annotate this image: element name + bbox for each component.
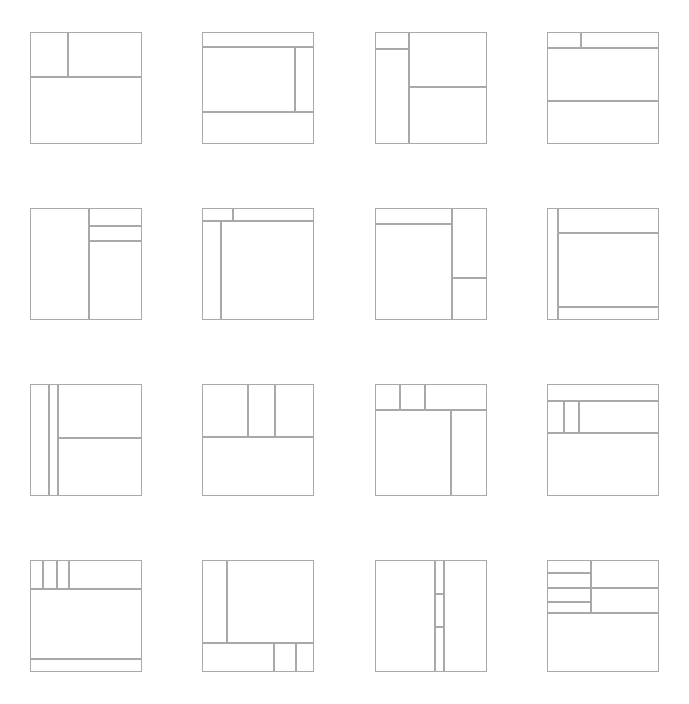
region-header-bar[interactable]: [203, 33, 314, 47]
region-toolbar-segment-3[interactable]: [58, 561, 69, 589]
region-toolbar-left[interactable]: [547, 33, 580, 48]
region-right-panel-bottom[interactable]: [452, 279, 486, 320]
region-tab-one[interactable]: [375, 385, 399, 410]
thumbnail-cell-16[interactable]: [517, 528, 689, 704]
thumbnail-cell-13[interactable]: [0, 528, 172, 704]
region-header-band[interactable]: [558, 209, 658, 233]
wireframe-thumbnail-grid: [0, 0, 689, 704]
region-header-column-middle[interactable]: [249, 385, 275, 437]
region-main-upper-panel[interactable]: [409, 33, 486, 87]
thumbnail-cell-2[interactable]: [172, 0, 344, 176]
region-main-lower-panel[interactable]: [409, 88, 486, 144]
region-thin-footer[interactable]: [31, 660, 142, 672]
region-rail-outer[interactable]: [31, 385, 49, 496]
wireframe-main-left-with-right-stacked-rail: [30, 208, 142, 320]
thumbnail-cell-6[interactable]: [172, 176, 344, 352]
region-right-panel-top[interactable]: [591, 561, 658, 588]
region-main-canvas[interactable]: [228, 561, 314, 643]
region-footer-bar[interactable]: [203, 113, 314, 144]
region-segment-left[interactable]: [547, 402, 563, 433]
thumbnail-cell-5[interactable]: [0, 176, 172, 352]
wireframe-toolbar-main-with-right-stacked-panels: [375, 208, 487, 320]
region-sidebar-body[interactable]: [375, 50, 408, 144]
region-narrow-rail[interactable]: [203, 222, 221, 320]
region-right-pane[interactable]: [444, 561, 486, 672]
region-side-rail[interactable]: [296, 48, 314, 112]
wireframe-small-tab-header-with-narrow-rail-and-main: [202, 208, 314, 320]
thumbnail-cell-1[interactable]: [0, 0, 172, 176]
region-main-canvas[interactable]: [375, 411, 450, 496]
region-body-area[interactable]: [203, 438, 314, 496]
region-divider-segment-top[interactable]: [435, 561, 443, 594]
thumbnail-cell-8[interactable]: [517, 176, 689, 352]
region-main-bottom-panel[interactable]: [59, 439, 142, 496]
region-divider-segment-low[interactable]: [435, 628, 443, 672]
region-list-row-2[interactable]: [547, 574, 590, 588]
region-list-row-4[interactable]: [547, 603, 590, 613]
region-bottom-bar-wide[interactable]: [203, 644, 274, 672]
region-banner-strip[interactable]: [547, 385, 658, 401]
region-main-column[interactable]: [31, 209, 89, 320]
region-content-area[interactable]: [203, 48, 295, 112]
region-segment-middle[interactable]: [564, 402, 578, 433]
region-main-top-panel[interactable]: [59, 385, 142, 438]
wireframe-header-split-two-over-full-body: [30, 32, 142, 144]
thumbnail-cell-15[interactable]: [345, 528, 517, 704]
region-toolbar-segment-2[interactable]: [44, 561, 57, 589]
region-list-row-3[interactable]: [547, 589, 590, 602]
region-list-row-1[interactable]: [547, 561, 590, 573]
wireframe-stacked-list-rows-with-right-panels-over-body: [547, 560, 659, 672]
wireframe-sidebar-with-cap-and-stacked-main: [375, 32, 487, 144]
region-content-area[interactable]: [547, 49, 658, 101]
region-toolbar-segment-4[interactable]: [70, 561, 142, 589]
wireframe-dual-left-rails-with-stacked-main: [30, 384, 142, 496]
region-footer-area[interactable]: [547, 102, 658, 144]
thumbnail-cell-12[interactable]: [517, 352, 689, 528]
region-main-workspace[interactable]: [222, 222, 314, 320]
thumbnail-cell-4[interactable]: [517, 0, 689, 176]
thumbnail-cell-9[interactable]: [0, 352, 172, 528]
region-right-panel-top[interactable]: [452, 209, 486, 278]
wireframe-banner-with-segmented-strip-over-body: [547, 384, 659, 496]
thumbnail-cell-3[interactable]: [345, 0, 517, 176]
region-content-band[interactable]: [558, 234, 658, 307]
region-tab-three[interactable]: [425, 385, 486, 410]
region-rail-inner[interactable]: [50, 385, 58, 496]
wireframe-tabbed-header-with-main-and-right-column: [375, 384, 487, 496]
region-left-edge-rail[interactable]: [547, 209, 557, 320]
region-left-pane[interactable]: [375, 561, 434, 672]
region-sidebar-column[interactable]: [203, 561, 227, 643]
thumbnail-cell-11[interactable]: [345, 352, 517, 528]
region-segment-right-wide[interactable]: [579, 402, 658, 433]
region-body-area[interactable]: [547, 614, 658, 672]
wireframe-four-segment-toolbar-body-and-thin-footer: [30, 560, 142, 672]
region-right-column[interactable]: [451, 411, 486, 496]
region-bottom-bar-right[interactable]: [297, 644, 314, 672]
region-header-strip[interactable]: [234, 209, 314, 221]
region-toolbar-segment-1[interactable]: [31, 561, 43, 589]
region-rail-panel-bottom[interactable]: [90, 242, 142, 320]
region-main-body[interactable]: [31, 78, 142, 144]
region-body-area[interactable]: [547, 434, 658, 496]
region-sidebar-cap[interactable]: [375, 33, 408, 49]
region-header-column-right[interactable]: [276, 385, 314, 437]
region-body-area[interactable]: [31, 590, 142, 659]
thumbnail-cell-14[interactable]: [172, 528, 344, 704]
region-toolbar-strip[interactable]: [375, 209, 451, 224]
region-rail-panel-top[interactable]: [90, 209, 142, 226]
region-main-canvas[interactable]: [375, 225, 451, 320]
wireframe-header-body-sidebar-footer: [202, 32, 314, 144]
region-right-panel-bottom[interactable]: [591, 589, 658, 613]
thumbnail-cell-10[interactable]: [172, 352, 344, 528]
region-toolbar-right[interactable]: [581, 33, 658, 48]
region-rail-panel-middle[interactable]: [90, 227, 142, 241]
region-bottom-bar-middle[interactable]: [275, 644, 296, 672]
region-header-column-left[interactable]: [203, 385, 248, 437]
region-tab-chip[interactable]: [203, 209, 233, 221]
region-top-right-panel[interactable]: [69, 33, 142, 77]
thumbnail-cell-7[interactable]: [345, 176, 517, 352]
region-divider-segment-mid[interactable]: [435, 595, 443, 627]
region-tab-two[interactable]: [400, 385, 424, 410]
region-footer-band[interactable]: [558, 308, 658, 320]
region-top-left-panel[interactable]: [31, 33, 68, 77]
